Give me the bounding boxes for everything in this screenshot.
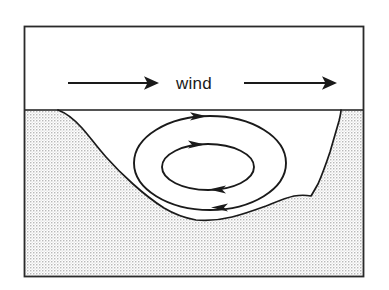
- wind-circulation-diagram: wind: [0, 0, 389, 290]
- wind-label: wind: [175, 74, 212, 93]
- figure-root: wind: [0, 0, 389, 290]
- air-region: [25, 27, 363, 110]
